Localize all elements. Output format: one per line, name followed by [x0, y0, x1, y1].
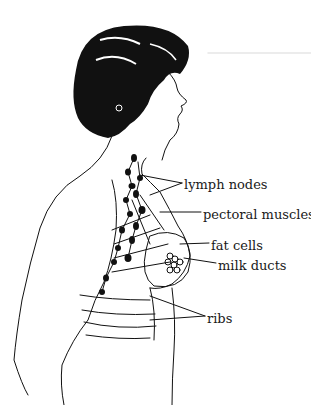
label-pectoral-muscles: pectoral muscles — [203, 208, 311, 221]
hair — [73, 25, 189, 138]
label-milk-ducts: milk ducts — [218, 259, 287, 272]
label-fat-cells: fat cells — [211, 239, 263, 252]
label-lymph-nodes: lymph nodes — [184, 178, 268, 191]
anatomy-diagram: lymph nodes pectoral muscles fat cells m… — [0, 0, 311, 405]
label-ribs: ribs — [207, 312, 232, 325]
lymph-node-dots — [99, 154, 146, 295]
illustration — [0, 0, 311, 405]
face-profile — [162, 72, 186, 160]
